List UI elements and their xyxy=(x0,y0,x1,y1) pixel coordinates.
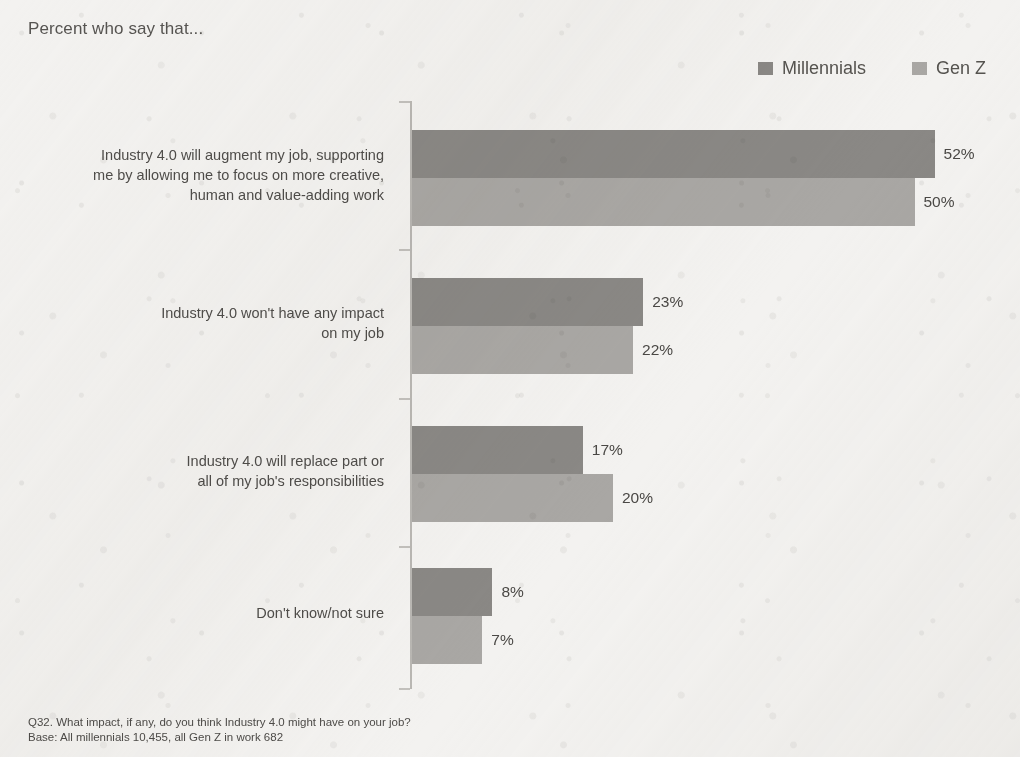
bar-value-label: 50% xyxy=(924,193,955,211)
category-label-line: on my job xyxy=(28,323,384,343)
category-label-line: Don't know/not sure xyxy=(28,603,384,623)
category-label-line: Industry 4.0 won't have any impact xyxy=(28,303,384,323)
bar-millennials[interactable] xyxy=(412,130,935,178)
axis-tick xyxy=(399,546,410,548)
category-label: Industry 4.0 will augment my job, suppor… xyxy=(28,145,384,205)
category-label: Industry 4.0 won't have any impact on my… xyxy=(28,303,384,343)
bar-millennials[interactable] xyxy=(412,426,583,474)
category-label-line: Industry 4.0 will replace part or xyxy=(28,451,384,471)
chart-page: Percent who say that... Millennials Gen … xyxy=(0,0,1020,757)
plot-area: Industry 4.0 will augment my job, suppor… xyxy=(0,0,1020,757)
category-label-line: me by allowing me to focus on more creat… xyxy=(28,165,384,185)
footnote-base: Base: All millennials 10,455, all Gen Z … xyxy=(28,730,411,745)
bar-value-label: 22% xyxy=(642,341,673,359)
axis-tick xyxy=(399,688,410,690)
category-label-line: all of my job's responsibilities xyxy=(28,471,384,491)
chart-footnotes: Q32. What impact, if any, do you think I… xyxy=(28,715,411,745)
category-label-line: human and value-adding work xyxy=(28,185,384,205)
bar-gen-z[interactable] xyxy=(412,474,613,522)
bar-millennials[interactable] xyxy=(412,568,492,616)
footnote-question: Q32. What impact, if any, do you think I… xyxy=(28,715,411,730)
bar-value-label: 17% xyxy=(592,441,623,459)
bar-gen-z[interactable] xyxy=(412,326,633,374)
category-label-line: Industry 4.0 will augment my job, suppor… xyxy=(28,145,384,165)
bar-gen-z[interactable] xyxy=(412,178,915,226)
bar-value-label: 7% xyxy=(491,631,513,649)
axis-tick xyxy=(399,398,410,400)
bar-value-label: 52% xyxy=(944,145,975,163)
axis-tick xyxy=(399,249,410,251)
bar-value-label: 8% xyxy=(501,583,523,601)
axis-tick xyxy=(399,101,410,103)
bar-millennials[interactable] xyxy=(412,278,643,326)
bar-value-label: 20% xyxy=(622,489,653,507)
category-label: Industry 4.0 will replace part or all of… xyxy=(28,451,384,491)
category-label: Don't know/not sure xyxy=(28,603,384,623)
bar-gen-z[interactable] xyxy=(412,616,482,664)
bar-value-label: 23% xyxy=(652,293,683,311)
